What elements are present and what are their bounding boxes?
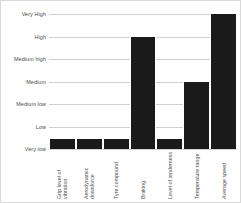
bar-braking[interactable] (130, 37, 157, 150)
bar-slot (183, 14, 210, 149)
bar-slot (76, 14, 103, 149)
x-tick-label-braking: Braking (140, 151, 146, 199)
bar-slot (49, 14, 76, 149)
bar-grip-level-of-vibration[interactable] (49, 139, 76, 149)
x-tick-label-tyre-compound: Tyre compound (113, 151, 119, 199)
x-tick-slot: Grip level of vibration (49, 149, 76, 203)
bar-temperature-range[interactable] (183, 82, 210, 150)
y-tick-label-very-low: Very low (25, 146, 46, 152)
x-tick-label-aerodynamic-downforce: Aerodynamic downforce (83, 151, 95, 199)
y-tick-label-medium-high: Medium high (14, 56, 46, 62)
bars-layer (49, 14, 237, 149)
x-tick-label-temperature-range: Temperature range (194, 151, 200, 199)
x-tick-label-level-of-tenderness: Level of tenderness (167, 151, 173, 199)
bar-slot (156, 14, 183, 149)
bar-tyre-compound[interactable] (103, 139, 130, 149)
y-tick-label-high: High (35, 34, 47, 40)
x-tick-slot: Level of tenderness (156, 149, 183, 203)
bar-level-of-tenderness[interactable] (156, 139, 183, 149)
bar-average-speed[interactable] (210, 14, 237, 149)
x-tick-slot: Average speed (210, 149, 237, 203)
bar-aerodynamic-downforce[interactable] (76, 139, 103, 149)
y-tick-label-very-high: Very High (22, 11, 46, 17)
y-tick-label-medium-low: Medium low (16, 101, 46, 107)
x-tick-label-average-speed: Average speed (221, 151, 227, 199)
y-tick-label-low: Low (36, 124, 46, 130)
x-axis: Grip level of vibration Aerodynamic down… (49, 149, 237, 203)
bar-slot (103, 14, 130, 149)
x-tick-slot: Braking (130, 149, 157, 203)
x-tick-slot: Aerodynamic downforce (76, 149, 103, 203)
bar-slot (130, 14, 157, 149)
bar-slot (210, 14, 237, 149)
plot-area (49, 14, 237, 149)
x-tick-slot: Tyre compound (103, 149, 130, 203)
x-tick-label-grip-level-of-vibration: Grip level of vibration (56, 151, 68, 199)
x-tick-slot: Temperature range (183, 149, 210, 203)
bar-chart: Very High High Medium high Medium Medium… (0, 0, 241, 203)
y-tick-label-medium: Medium (26, 79, 46, 85)
y-axis: Very High High Medium high Medium Medium… (1, 14, 46, 149)
